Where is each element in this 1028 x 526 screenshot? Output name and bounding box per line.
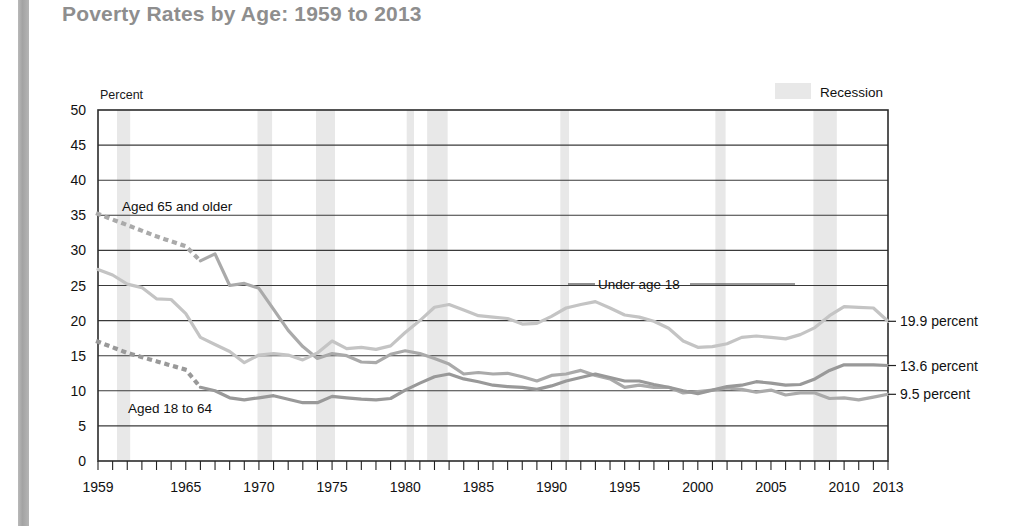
x-axis-tick-label: 2013: [872, 479, 903, 495]
x-axis-tick-label: 1970: [243, 479, 274, 495]
series-line: [200, 254, 888, 400]
y-axis-tick-label: 30: [70, 242, 86, 258]
x-axis-tick-label: 1990: [536, 479, 567, 495]
series-lines: [98, 214, 888, 403]
x-axis-tick-label: 1985: [463, 479, 494, 495]
x-axis-tick-label: 1959: [82, 479, 113, 495]
series-line-dotted: [98, 214, 200, 261]
y-axis-tick-label: 10: [70, 383, 86, 399]
poverty-rates-chart: 05101520253035404550 1959196519701975198…: [0, 0, 1028, 526]
series-line-dotted: [98, 342, 200, 388]
x-axis-tick-label: 1980: [390, 479, 421, 495]
y-axis-tick-labels: 05101520253035404550: [70, 102, 86, 469]
y-axis-tick-label: 5: [78, 418, 86, 434]
y-axis-tick-label: 35: [70, 207, 86, 223]
y-axis-tick-label: 45: [70, 137, 86, 153]
x-axis-tick-labels: 1959196519701975198019851990199520002005…: [82, 479, 903, 495]
x-axis-tick-label: 2000: [682, 479, 713, 495]
x-axis-ticks: [98, 461, 888, 470]
y-axis-tick-label: 20: [70, 313, 86, 329]
series-line: [200, 365, 888, 403]
aged-18-64-end-label: 13.6 percent: [900, 358, 978, 374]
x-axis-tick-label: 1975: [316, 479, 347, 495]
y-axis-tick-label: 25: [70, 278, 86, 294]
x-axis-tick-label: 1995: [609, 479, 640, 495]
series-line: [98, 269, 888, 362]
aged-65-plus-end-label: 9.5 percent: [900, 386, 970, 402]
x-axis-tick-label: 2005: [755, 479, 786, 495]
y-axis-tick-label: 50: [70, 102, 86, 118]
under-18-end-label: 19.9 percent: [900, 313, 978, 329]
y-axis-tick-label: 0: [78, 453, 86, 469]
y-axis-tick-label: 15: [70, 348, 86, 364]
end-value-labels: 19.9 percent13.6 percent9.5 percent: [888, 313, 978, 402]
x-axis-tick-label: 1965: [170, 479, 201, 495]
x-axis-tick-label: 2010: [829, 479, 860, 495]
y-axis-tick-label: 40: [70, 172, 86, 188]
chart-canvas: 05101520253035404550 1959196519701975198…: [0, 0, 1028, 526]
